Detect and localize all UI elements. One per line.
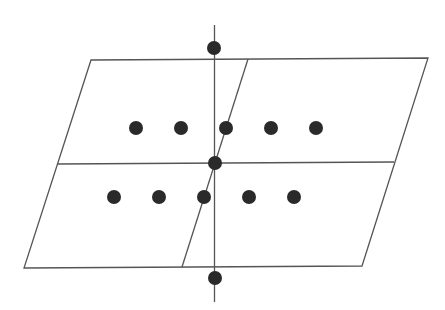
upper-row-dot-1 [129,121,143,135]
horizontal-divider-line [57,162,394,164]
axis-dot-bottom [208,271,222,285]
lower-row-dot-5 [287,190,301,204]
lower-row-dot-3 [197,190,211,204]
lower-row-dot-1 [107,190,121,204]
lattice-diagram-canvas [0,0,445,310]
lower-row-dot-4 [242,190,256,204]
upper-row-dot-3 [219,121,233,135]
axis-dot-top [207,41,221,55]
lower-row-dot-2 [152,190,166,204]
upper-row-dot-5 [309,121,323,135]
lattice-diagram [0,0,445,310]
upper-row-dot-2 [174,121,188,135]
axis-dot-center [208,156,222,170]
upper-row-dot-4 [264,121,278,135]
